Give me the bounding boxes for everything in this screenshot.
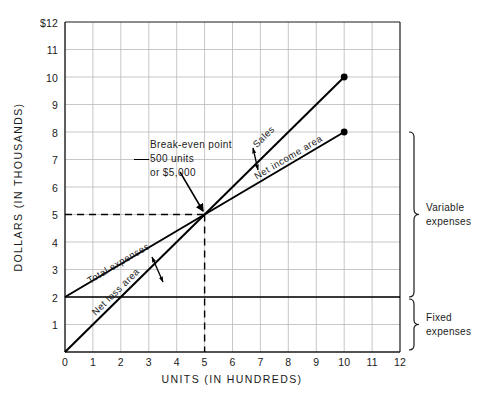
x-axis-title: UNITS (IN HUNDREDS)	[162, 373, 303, 385]
x-tick-label: 7	[257, 356, 263, 368]
variable-expenses-bracket	[409, 132, 419, 297]
y-tick-label: 4	[52, 237, 58, 249]
x-tick-label: 6	[229, 356, 235, 368]
y-tick-label: $12	[40, 17, 58, 29]
break-even-chart: $12 11 10 9 8 7 6 5 4 3 2 1 0 1 2 3 4 5 …	[0, 0, 494, 401]
x-tick-label: 8	[285, 356, 291, 368]
x-tick-label: 2	[118, 356, 124, 368]
y-tick-label: 8	[52, 127, 58, 139]
y-tick-label: 7	[52, 154, 58, 166]
x-tick-labels: 0 1 2 3 4 5 6 7 8 9 10 11 12	[62, 356, 406, 368]
fixed-expenses-label-line-2: expenses	[426, 326, 471, 337]
break-even-line-1: Break-even point	[150, 139, 232, 150]
y-tick-label: 3	[52, 264, 58, 276]
total-expenses-endpoint-marker	[341, 129, 348, 136]
x-tick-label: 3	[146, 356, 152, 368]
y-tick-label: 2	[52, 292, 58, 304]
y-tick-label: 11	[47, 44, 58, 56]
variable-expenses-label: Variable expenses	[426, 202, 471, 227]
fixed-expenses-bracket	[409, 299, 419, 350]
y-tick-label: 10	[46, 72, 58, 84]
break-even-line-3: or $5,000	[150, 167, 196, 178]
variable-expenses-label-line-2: expenses	[426, 216, 471, 227]
x-tick-label: 11	[366, 356, 377, 368]
variable-expenses-label-line-1: Variable	[426, 202, 464, 213]
fixed-expenses-label-line-1: Fixed	[426, 312, 452, 323]
x-tick-label: 1	[90, 356, 96, 368]
y-tick-label: 5	[52, 209, 58, 221]
y-axis-title: DOLLARS (IN THOUSANDS)	[12, 103, 24, 272]
x-tick-label: 12	[394, 356, 406, 368]
y-tick-label: 1	[52, 319, 58, 331]
y-tick-labels: $12 11 10 9 8 7 6 5 4 3 2 1	[40, 17, 58, 332]
y-tick-label: 6	[52, 182, 58, 194]
x-tick-label: 5	[202, 356, 208, 368]
x-tick-label: 4	[174, 356, 180, 368]
break-even-line-2: 500 units	[150, 153, 194, 164]
chart-canvas: $12 11 10 9 8 7 6 5 4 3 2 1 0 1 2 3 4 5 …	[0, 0, 494, 401]
x-tick-label: 9	[313, 356, 319, 368]
fixed-expenses-label: Fixed expenses	[426, 312, 471, 337]
sales-endpoint-marker	[341, 74, 348, 81]
x-tick-label: 10	[338, 356, 350, 368]
x-tick-label: 0	[62, 356, 68, 368]
y-tick-label: 9	[52, 99, 58, 111]
